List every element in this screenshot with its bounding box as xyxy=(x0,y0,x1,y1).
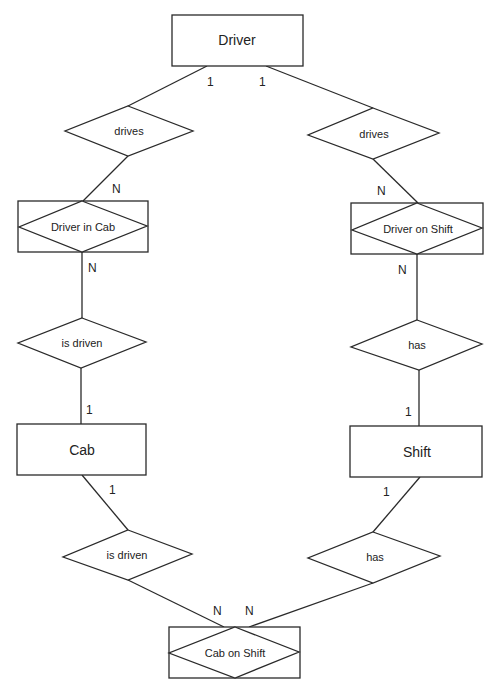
entity-label: Shift xyxy=(403,444,431,460)
relationship-is-driven-lower[interactable]: is driven xyxy=(63,530,192,580)
relationship-label: is driven xyxy=(62,337,103,349)
associative-entity-cab-on-shift[interactable]: Cab on Shift xyxy=(169,627,300,678)
relationship-label: is driven xyxy=(107,549,148,561)
cardinality-driver-on-shift-bottom: N xyxy=(398,263,407,277)
associative-label: Driver in Cab xyxy=(51,221,115,233)
cardinality-cab-bottom: 1 xyxy=(109,483,116,497)
entity-cab[interactable]: Cab xyxy=(17,424,146,475)
cardinality-driver-left: 1 xyxy=(207,75,214,89)
cardinality-driver-in-cab-top: N xyxy=(112,182,121,196)
associative-entity-driver-on-shift[interactable]: Driver on Shift xyxy=(351,203,483,254)
cardinality-driver-on-shift-top: N xyxy=(377,184,386,198)
cardinality-driver-in-cab-bottom: N xyxy=(88,261,97,275)
relationship-drives-left[interactable]: drives xyxy=(65,106,193,156)
relationship-label: drives xyxy=(359,128,389,140)
line-shift-to-has-lower xyxy=(373,477,420,532)
associative-label: Cab on Shift xyxy=(205,647,266,659)
line-drives-left-to-driver-in-cab xyxy=(83,156,128,201)
relationship-has-upper[interactable]: has xyxy=(351,320,482,370)
cardinality-shift-bottom: 1 xyxy=(383,485,390,499)
er-diagram: Driver drives drives Driver in Cab Drive… xyxy=(0,0,498,695)
associative-entity-driver-in-cab[interactable]: Driver in Cab xyxy=(18,201,148,252)
relationship-label: has xyxy=(408,339,426,351)
relationship-is-driven-upper[interactable]: is driven xyxy=(18,318,146,368)
relationship-drives-right[interactable]: drives xyxy=(308,108,439,159)
cardinality-cab-top: 1 xyxy=(86,403,93,417)
line-driver-to-drives-left xyxy=(128,66,207,106)
line-is-driven-lower-to-cab-on-shift xyxy=(128,580,224,627)
cardinality-shift-top: 1 xyxy=(405,405,412,419)
associative-label: Driver on Shift xyxy=(383,223,453,235)
entity-label: Driver xyxy=(218,32,256,48)
line-has-lower-to-cab-on-shift xyxy=(249,583,373,627)
cardinality-driver-right: 1 xyxy=(259,75,266,89)
entity-driver[interactable]: Driver xyxy=(172,15,303,66)
relationship-label: drives xyxy=(114,125,144,137)
relationship-has-lower[interactable]: has xyxy=(308,532,440,583)
line-driver-to-drives-right xyxy=(266,66,373,108)
cardinality-cab-on-shift-right: N xyxy=(245,604,254,618)
entity-label: Cab xyxy=(69,442,95,458)
cardinality-cab-on-shift-left: N xyxy=(213,604,222,618)
relationship-label: has xyxy=(366,551,384,563)
entity-shift[interactable]: Shift xyxy=(350,426,482,477)
line-cab-to-is-driven-lower xyxy=(82,475,128,530)
